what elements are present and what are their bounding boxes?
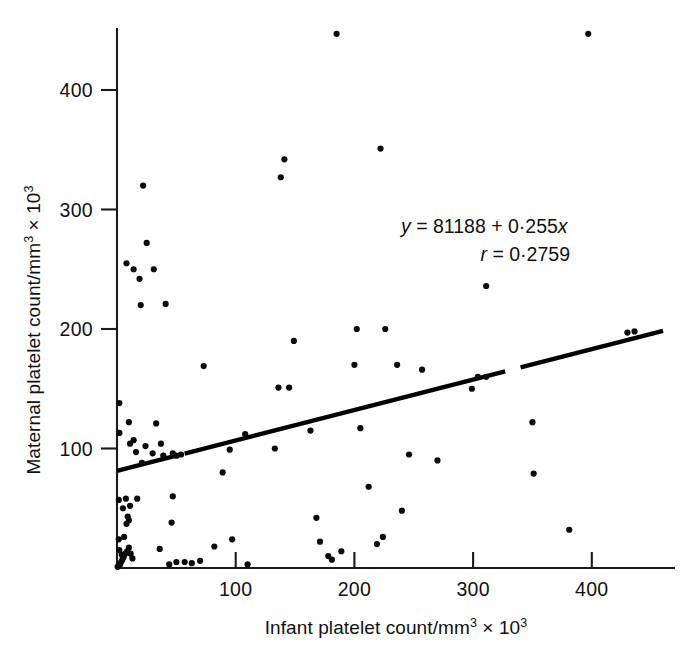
data-point [399, 508, 405, 514]
data-point [338, 548, 344, 554]
data-point [354, 326, 360, 332]
data-point [173, 559, 179, 565]
data-point [125, 514, 131, 520]
data-point [351, 362, 357, 368]
data-point [160, 453, 166, 459]
data-point [377, 145, 383, 151]
data-point [197, 558, 203, 564]
regression-line [117, 331, 663, 471]
data-point [211, 543, 217, 549]
data-point [120, 505, 126, 511]
data-point [131, 437, 137, 443]
data-point [153, 420, 159, 426]
data-point [382, 326, 388, 332]
data-point [178, 451, 184, 457]
equation-body: = 81188 + 0·255 [411, 215, 558, 237]
y-tick-label-300: 300 [60, 199, 93, 221]
x-axis-title-sup2: 3 [520, 616, 527, 630]
data-point [291, 338, 297, 344]
data-point [286, 384, 292, 390]
y-axis-ticks [101, 90, 117, 449]
data-point [275, 384, 281, 390]
data-point [182, 559, 188, 565]
data-point [126, 419, 132, 425]
correlation-value: = 0·2759 [487, 243, 570, 265]
data-point [307, 427, 313, 433]
data-point [169, 519, 175, 525]
x-tick-label-200: 200 [338, 578, 371, 600]
data-point [134, 496, 140, 502]
regression-line-segment-1 [117, 456, 176, 471]
data-point [419, 367, 425, 373]
data-point [116, 497, 122, 503]
svg-text:Maternal platelet count/mm3 ×: Maternal platelet count/mm3 × 103 [22, 185, 44, 474]
data-point [133, 449, 139, 455]
data-point [278, 174, 284, 180]
data-point [317, 539, 323, 545]
data-point [166, 561, 172, 567]
data-point [127, 503, 133, 509]
svg-text:Infant platelet count/mm3 × 10: Infant platelet count/mm3 × 103 [265, 616, 528, 638]
data-point [129, 555, 135, 561]
y-axis-title-sup1: 3 [22, 236, 36, 243]
data-point [244, 561, 250, 567]
data-point [116, 400, 122, 406]
data-point [126, 545, 132, 551]
scatter-plot-figure: 100200300400 100200300400 Maternal plate… [0, 0, 687, 661]
y-tick-label-100: 100 [60, 438, 93, 460]
scatter-plot-canvas: 100200300400 100200300400 Maternal plate… [0, 0, 687, 661]
data-point [624, 329, 630, 335]
x-axis-title-times: × 10 [482, 617, 520, 638]
data-point [366, 484, 372, 490]
x-tick-label-300: 300 [456, 578, 489, 600]
data-point [313, 515, 319, 521]
data-point [531, 471, 537, 477]
data-point [475, 374, 481, 380]
data-point [139, 460, 145, 466]
x-tick-label-400: 400 [575, 578, 608, 600]
data-point [585, 31, 591, 37]
data-point [229, 536, 235, 542]
data-point [242, 431, 248, 437]
x-axis-title: Infant platelet count/mm3 × 103 [265, 616, 528, 638]
data-point [469, 386, 475, 392]
data-point [151, 266, 157, 272]
y-axis-title-sup2: 3 [22, 185, 36, 192]
data-point [116, 430, 122, 436]
data-point [272, 445, 278, 451]
data-point [138, 302, 144, 308]
data-point [529, 419, 535, 425]
data-point [406, 451, 412, 457]
y-tick-label-400: 400 [60, 79, 93, 101]
data-point [220, 469, 226, 475]
x-axis-tick-labels: 100200300400 [219, 578, 609, 600]
x-axis-title-base: Infant platelet count/mm [265, 617, 470, 638]
data-point [121, 534, 127, 540]
data-point [170, 493, 176, 499]
data-point [201, 363, 207, 369]
data-point [281, 156, 287, 162]
data-point [140, 183, 146, 189]
x-axis-ticks [236, 552, 592, 568]
data-point [158, 441, 164, 447]
data-point [131, 266, 137, 272]
data-point [157, 546, 163, 552]
y-axis-title-times: × 10 [23, 192, 44, 230]
data-point [394, 362, 400, 368]
data-point [357, 425, 363, 431]
data-point [189, 560, 195, 566]
y-axis-title: Maternal platelet count/mm3 × 103 [22, 185, 44, 474]
data-point [483, 374, 489, 380]
data-point [150, 450, 156, 456]
data-point [116, 547, 122, 553]
data-point [374, 541, 380, 547]
data-point [163, 301, 169, 307]
data-point [116, 536, 122, 542]
data-point [227, 447, 233, 453]
data-point [329, 557, 335, 563]
data-point [123, 496, 129, 502]
svg-text:r = 0·2759: r = 0·2759 [481, 243, 570, 265]
regression-line-segment-3 [521, 331, 663, 368]
data-point [136, 276, 142, 282]
equation-annotation: y = 81188 + 0·255x r = 0·2759 [399, 215, 570, 265]
